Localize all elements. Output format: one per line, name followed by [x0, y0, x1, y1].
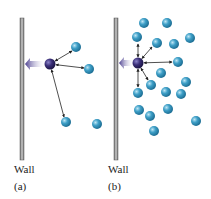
force-arrow-b — [119, 57, 134, 69]
gas-molecule — [133, 88, 143, 98]
wall-b — [114, 18, 118, 160]
gas-molecule — [185, 33, 195, 43]
gas-molecule — [71, 42, 81, 52]
collision-arrow — [141, 68, 148, 80]
collision-arrow — [142, 47, 152, 58]
gas-molecule — [176, 89, 186, 99]
gas-molecule — [145, 111, 155, 121]
gas-molecule — [173, 57, 183, 67]
gas-molecule — [132, 32, 142, 42]
panel-label-a: (a) — [14, 180, 26, 192]
collision-arrow — [56, 65, 84, 68]
gas-molecule — [152, 38, 162, 48]
gas-molecule — [61, 117, 71, 127]
gas-molecule — [191, 116, 201, 126]
wall-label-a: Wall — [14, 163, 35, 175]
highlighted-molecule-b — [133, 58, 144, 69]
gas-molecule — [84, 64, 94, 74]
gas-molecule — [92, 119, 102, 129]
gas-molecule — [156, 68, 166, 78]
gas-molecule — [161, 87, 171, 97]
gas-molecule — [169, 39, 179, 49]
collision-arrow — [52, 70, 64, 117]
gas-molecule — [162, 18, 172, 28]
gas-molecule — [139, 18, 149, 28]
gas-molecule — [146, 80, 156, 90]
wall-label-b: Wall — [108, 163, 129, 175]
highlighted-molecule-a — [45, 59, 56, 70]
gas-molecule — [134, 105, 144, 115]
force-arrow-a — [25, 58, 46, 70]
collision-arrow — [55, 51, 72, 61]
gas-molecule — [181, 77, 191, 87]
panel-label-b: (b) — [108, 180, 121, 192]
wall-a — [20, 18, 24, 160]
gas-molecule — [163, 104, 173, 114]
gas-molecule — [149, 126, 159, 136]
collision-arrow — [144, 62, 172, 63]
